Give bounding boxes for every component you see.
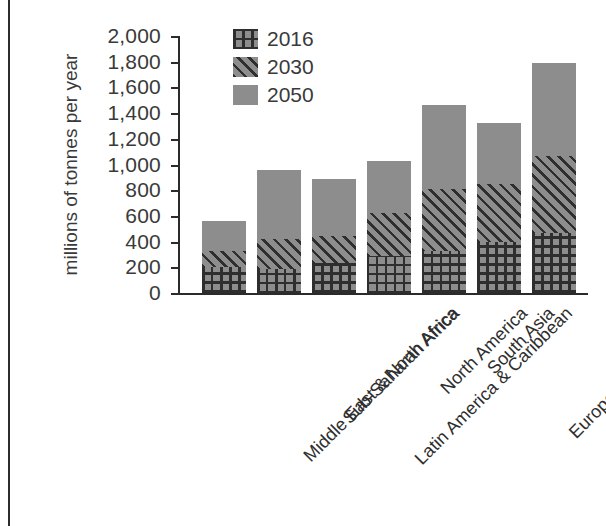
- bar-segment-2016: [312, 263, 356, 293]
- bar-segment-2016: [202, 267, 246, 293]
- bar-segment-2016: [367, 256, 411, 293]
- y-tick: 200: [171, 267, 179, 269]
- y-tick: 1,600: [171, 87, 179, 89]
- stacked-bar: [202, 221, 246, 293]
- bar-segment-2050: [477, 123, 521, 183]
- y-tick-label: 1,800: [107, 50, 161, 74]
- y-tick-label: 1,600: [107, 75, 161, 99]
- chart-legend: 201620302050: [233, 28, 314, 105]
- bar-segment-2016: [257, 269, 301, 293]
- legend-item: 2050: [233, 84, 314, 105]
- bar-segment-2030: [422, 189, 466, 251]
- y-tick-label: 400: [125, 230, 161, 254]
- y-tick: 600: [171, 216, 179, 218]
- x-axis-category-label: Sub-Saharan Africa: [339, 303, 464, 428]
- y-tick: 0: [171, 293, 179, 295]
- bar-segment-2050: [367, 161, 411, 214]
- x-axis-line: [178, 293, 588, 295]
- solid-gray-swatch: [233, 85, 258, 105]
- bar-segment-2030: [477, 184, 521, 242]
- bar-segment-2030: [367, 213, 411, 255]
- bar-segment-2050: [202, 221, 246, 251]
- bar-segment-2050: [532, 63, 576, 156]
- y-tick: 400: [171, 242, 179, 244]
- y-tick-label: 800: [125, 178, 161, 202]
- cross-grid-swatch: [233, 29, 258, 49]
- stacked-bar: [477, 123, 521, 293]
- y-tick-label: 200: [125, 255, 161, 279]
- bar-segment-2030: [312, 236, 356, 263]
- bar-segment-2030: [532, 156, 576, 233]
- y-tick: 1,200: [171, 139, 179, 141]
- y-tick: 1,000: [171, 165, 179, 167]
- bar-segment-2016: [532, 233, 576, 293]
- chart-figure: millions of tonnes per year 2,0001,8001,…: [0, 0, 606, 526]
- y-tick-label: 600: [125, 204, 161, 228]
- stacked-bar: [367, 161, 411, 293]
- y-tick: 1,400: [171, 113, 179, 115]
- y-tick: 800: [171, 190, 179, 192]
- legend-label: 2016: [267, 28, 314, 49]
- y-tick-label: 1,000: [107, 153, 161, 177]
- bar-segment-2030: [202, 251, 246, 268]
- bar-segment-2050: [312, 179, 356, 237]
- page-left-rule: [8, 0, 10, 526]
- bar-segment-2030: [257, 239, 301, 269]
- y-axis-title: millions of tonnes per year: [58, 36, 84, 293]
- y-tick-label: 1,200: [107, 127, 161, 151]
- bar-segment-2050: [257, 170, 301, 239]
- x-axis-category-label: Europe & Central Asia: [565, 303, 606, 443]
- y-tick: 1,800: [171, 62, 179, 64]
- legend-item: 2016: [233, 28, 314, 49]
- stacked-bar: [257, 170, 301, 293]
- y-tick-label: 0: [149, 281, 161, 305]
- y-tick: 2,000: [171, 36, 179, 38]
- legend-label: 2050: [267, 84, 314, 105]
- legend-item: 2030: [233, 56, 314, 77]
- y-tick-label: 1,400: [107, 101, 161, 125]
- bar-segment-2016: [477, 242, 521, 293]
- bar-segment-2050: [422, 105, 466, 189]
- legend-label: 2030: [267, 56, 314, 77]
- diagonal-hatch-swatch: [233, 57, 258, 77]
- bar-segment-2016: [422, 251, 466, 293]
- y-tick-label: 2,000: [107, 24, 161, 48]
- stacked-bar: [422, 105, 466, 293]
- stacked-bar: [532, 63, 576, 293]
- stacked-bar: [312, 179, 356, 293]
